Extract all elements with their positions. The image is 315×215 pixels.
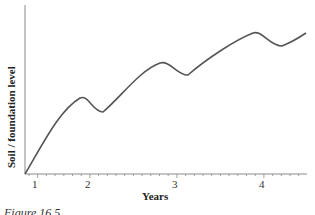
figure-caption: Figure 16.5: [4, 206, 60, 215]
x-axis-label: Years: [142, 190, 168, 202]
x-tick-label: 3: [172, 178, 178, 190]
x-tick-label: 4: [259, 178, 265, 190]
y-axis-label: Soil / foundation level: [5, 66, 17, 168]
x-tick-label: 1: [32, 178, 38, 190]
line-chart: [0, 0, 315, 215]
data-line: [25, 33, 306, 174]
x-tick-label: 2: [85, 178, 91, 190]
